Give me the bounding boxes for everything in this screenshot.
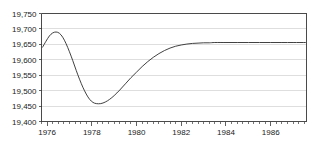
y-axis-tick-label: 19,550 [12,71,37,80]
x-axis-tick-label: 1976 [38,128,56,137]
x-axis-tick-label: 1986 [262,128,280,137]
y-axis-tick-label: 19,650 [12,40,37,49]
y-axis-tick-label: 19,600 [12,56,37,65]
y-axis-tick-label: 19,500 [12,87,37,96]
x-axis-tick-label: 1982 [172,128,190,137]
chart-canvas: 19,40019,45019,50019,55019,60019,65019,7… [0,0,323,142]
y-axis-tick-label: 19,750 [12,10,37,19]
y-axis-tick-label: 19,450 [12,102,37,111]
y-axis-tick-label: 19,700 [12,25,37,34]
chart-background [0,0,323,142]
y-axis-tick-label: 19,400 [12,118,37,127]
x-axis-tick-label: 1984 [217,128,235,137]
line-chart: 19,40019,45019,50019,55019,60019,65019,7… [0,0,323,142]
x-axis-tick-label: 1980 [128,128,146,137]
x-axis-tick-label: 1978 [83,128,101,137]
